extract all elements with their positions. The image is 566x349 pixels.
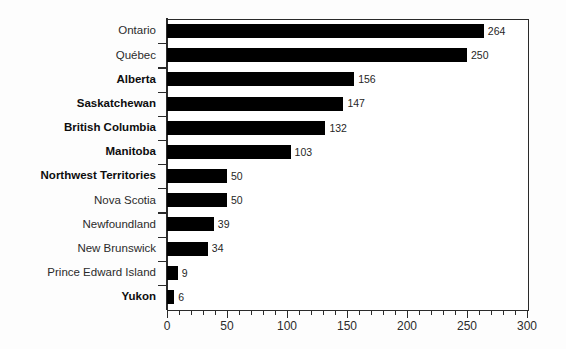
x-axis-minor-tick	[491, 311, 492, 315]
x-axis-minor-tick	[251, 311, 252, 315]
x-axis-minor-tick	[311, 311, 312, 315]
x-axis-minor-tick	[275, 311, 276, 315]
x-axis-major-tick	[527, 311, 528, 318]
horizontal-bar-chart: Ontario Québec Alberta Saskatchewan Brit…	[0, 0, 566, 349]
x-axis-minor-tick	[179, 311, 180, 315]
y-axis-label-quebec: Québec	[0, 43, 162, 67]
y-axis-label-saskatchewan: Saskatchewan	[0, 92, 162, 116]
y-axis-label-nova-scotia: Nova Scotia	[0, 188, 162, 212]
bar-value-nova-scotia: 50	[231, 195, 243, 206]
y-axis-label-prince-edward-island: Prince Edward Island	[0, 261, 162, 285]
y-axis-label-ontario: Ontario	[0, 19, 162, 43]
x-axis-label-300: 300	[517, 320, 537, 332]
bar-ontario	[167, 24, 484, 38]
y-axis-label-british-columbia: British Columbia	[0, 116, 162, 140]
x-axis-tick-labels: 050100150200250300	[167, 320, 527, 340]
bar-row: 6	[167, 285, 527, 309]
x-axis-minor-tick	[263, 311, 264, 315]
x-axis-label-150: 150	[337, 320, 357, 332]
bars-container: 264 250 156 147 132 103 50 50	[167, 19, 527, 309]
bar-quebec	[167, 48, 467, 62]
y-axis-label-northwest-territories: Northwest Territories	[0, 164, 162, 188]
x-axis-label-50: 50	[220, 320, 233, 332]
x-axis-minor-tick	[419, 311, 420, 315]
x-axis-minor-tick	[323, 311, 324, 315]
x-axis-minor-tick	[359, 311, 360, 315]
x-axis-label-200: 200	[397, 320, 417, 332]
bar-value-northwest-territories: 50	[231, 171, 243, 182]
bar-value-british-columbia: 132	[329, 123, 347, 134]
bar-row: 250	[167, 43, 527, 67]
x-axis-minor-tick	[299, 311, 300, 315]
x-axis-minor-tick	[515, 311, 516, 315]
bar-value-yukon: 6	[178, 292, 184, 303]
x-axis-minor-tick	[191, 311, 192, 315]
x-axis-major-tick	[407, 311, 408, 318]
bar-row: 50	[167, 164, 527, 188]
x-axis-minor-tick	[203, 311, 204, 315]
x-axis-minor-tick	[239, 311, 240, 315]
x-axis-minor-tick	[383, 311, 384, 315]
x-axis-tick-marks	[167, 311, 527, 318]
bar-row: 50	[167, 188, 527, 212]
bar-row: 264	[167, 19, 527, 43]
bar-value-new-brunswick: 34	[212, 243, 224, 254]
x-axis-minor-tick	[479, 311, 480, 315]
bar-newfoundland	[167, 217, 214, 231]
bar-value-manitoba: 103	[295, 147, 313, 158]
bar-value-newfoundland: 39	[218, 219, 230, 230]
x-axis-minor-tick	[371, 311, 372, 315]
x-axis-minor-tick	[503, 311, 504, 315]
x-axis-major-tick	[167, 311, 168, 318]
x-axis-major-tick	[287, 311, 288, 318]
x-axis-label-0: 0	[164, 320, 171, 332]
x-axis-label-100: 100	[277, 320, 297, 332]
bar-saskatchewan	[167, 97, 343, 111]
x-axis-minor-tick	[443, 311, 444, 315]
bar-new-brunswick	[167, 242, 208, 256]
x-axis-minor-tick	[335, 311, 336, 315]
x-axis-major-tick	[347, 311, 348, 318]
x-axis-minor-tick	[395, 311, 396, 315]
bar-manitoba	[167, 145, 291, 159]
bar-value-prince-edward-island: 9	[182, 268, 188, 279]
bar-value-ontario: 264	[488, 26, 506, 37]
y-axis-label-manitoba: Manitoba	[0, 140, 162, 164]
x-axis-major-tick	[467, 311, 468, 318]
y-axis-label-alberta: Alberta	[0, 67, 162, 91]
bar-row: 103	[167, 140, 527, 164]
y-axis-category-labels: Ontario Québec Alberta Saskatchewan Brit…	[0, 19, 162, 309]
bar-row: 9	[167, 261, 527, 285]
bar-row: 39	[167, 212, 527, 236]
bar-value-quebec: 250	[471, 50, 489, 61]
bar-row: 34	[167, 237, 527, 261]
bar-northwest-territories	[167, 169, 227, 183]
bar-row: 156	[167, 67, 527, 91]
x-axis-minor-tick	[215, 311, 216, 315]
x-axis-minor-tick	[455, 311, 456, 315]
bar-value-saskatchewan: 147	[347, 98, 365, 109]
y-axis-label-yukon: Yukon	[0, 285, 162, 309]
y-axis-label-newfoundland: Newfoundland	[0, 212, 162, 236]
bar-british-columbia	[167, 121, 325, 135]
x-axis-label-250: 250	[457, 320, 477, 332]
bar-yukon	[167, 290, 174, 304]
x-axis-major-tick	[227, 311, 228, 318]
bar-value-alberta: 156	[358, 74, 376, 85]
x-axis-minor-tick	[431, 311, 432, 315]
bar-nova-scotia	[167, 193, 227, 207]
bar-alberta	[167, 72, 354, 86]
bar-row: 147	[167, 92, 527, 116]
bar-row: 132	[167, 116, 527, 140]
y-axis-label-new-brunswick: New Brunswick	[0, 237, 162, 261]
bar-prince-edward-island	[167, 266, 178, 280]
